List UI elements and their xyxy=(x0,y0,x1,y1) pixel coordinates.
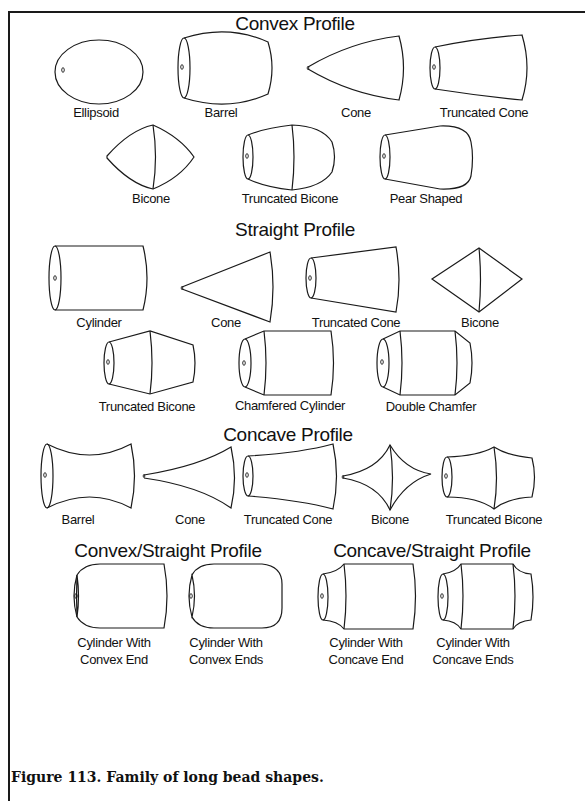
straight-truncated-cone-shape xyxy=(306,247,399,312)
section-title-straight: Straight Profile xyxy=(235,219,355,241)
straight-truncated-bicone-shape xyxy=(104,331,195,394)
section-title-convex-straight: Convex/Straight Profile xyxy=(74,540,261,562)
label-convex-bicone: Bicone xyxy=(132,190,170,207)
label-line2: Convex Ends xyxy=(189,651,263,668)
label-concave-truncated-bicone: Truncated Bicone xyxy=(446,511,543,528)
label-straight-chamfered-cylinder: Chamfered Cylinder xyxy=(235,397,345,414)
label-line1: Cylinder With xyxy=(433,634,514,651)
straight-double-chamfer-shape xyxy=(377,331,472,395)
label-convex-truncated-cone: Truncated Cone xyxy=(440,104,529,121)
label-concave-bicone: Bicone xyxy=(371,511,409,528)
concave-cone-shape xyxy=(143,447,234,508)
label-straight-cone: Cone xyxy=(211,314,241,331)
convex-truncated-cone-shape xyxy=(430,35,527,100)
convex-bicone-shape xyxy=(107,125,194,189)
label-straight-truncated-cone: Truncated Cone xyxy=(312,314,401,331)
convex-truncated-bicone-shape xyxy=(243,125,335,190)
label-concave-cone: Cone xyxy=(175,511,205,528)
label-line1: Cylinder With xyxy=(329,634,404,651)
label-cylinder-concave-end: Cylinder With Concave End xyxy=(329,634,404,668)
figure-caption: Figure 113. Family of long bead shapes. xyxy=(11,769,324,785)
label-convex-pear-shaped: Pear Shaped xyxy=(390,190,463,207)
label-straight-double-chamfer: Double Chamfer xyxy=(386,398,476,415)
concave-barrel-shape xyxy=(41,444,135,508)
label-line2: Convex End xyxy=(77,651,150,668)
label-straight-cylinder: Cylinder xyxy=(76,314,121,331)
convex-pear-shaped-shape xyxy=(380,126,473,189)
straight-cylinder-shape xyxy=(49,246,147,310)
cylinder-convex-ends-shape xyxy=(189,564,282,628)
label-convex-cone: Cone xyxy=(341,104,371,121)
straight-bicone-shape xyxy=(432,248,522,312)
label-cylinder-convex-end: Cylinder With Convex End xyxy=(77,634,150,668)
label-straight-truncated-bicone: Truncated Bicone xyxy=(99,398,196,415)
label-convex-barrel: Barrel xyxy=(205,104,238,121)
cylinder-convex-end-shape xyxy=(74,564,167,628)
label-cylinder-convex-ends: Cylinder With Convex Ends xyxy=(189,634,263,668)
label-line2: Concave Ends xyxy=(433,651,514,668)
cylinder-concave-end-shape xyxy=(318,564,416,629)
convex-cone-shape xyxy=(307,36,403,100)
section-title-concave-straight: Concave/Straight Profile xyxy=(333,540,531,562)
straight-cone-shape xyxy=(181,252,273,322)
straight-chamfered-cylinder-shape xyxy=(239,331,334,395)
concave-bicone-shape xyxy=(342,445,431,510)
convex-barrel-shape xyxy=(178,32,272,104)
label-convex-ellipsoid: Ellipsoid xyxy=(73,104,119,121)
section-title-convex: Convex Profile xyxy=(235,13,354,35)
convex-ellipsoid-shape xyxy=(55,40,143,104)
label-cylinder-concave-ends: Cylinder With Concave Ends xyxy=(433,634,514,668)
concave-truncated-bicone-shape xyxy=(442,447,535,509)
label-convex-truncated-bicone: Truncated Bicone xyxy=(242,190,339,207)
label-line1: Cylinder With xyxy=(77,634,150,651)
cylinder-concave-ends-shape xyxy=(438,564,533,629)
label-line1: Cylinder With xyxy=(189,634,263,651)
label-straight-bicone: Bicone xyxy=(461,314,499,331)
label-concave-barrel: Barrel xyxy=(62,511,95,528)
concave-truncated-cone-shape xyxy=(243,444,337,509)
section-title-concave: Concave Profile xyxy=(223,424,353,446)
label-concave-truncated-cone: Truncated Cone xyxy=(244,511,333,528)
label-line2: Concave End xyxy=(329,651,404,668)
